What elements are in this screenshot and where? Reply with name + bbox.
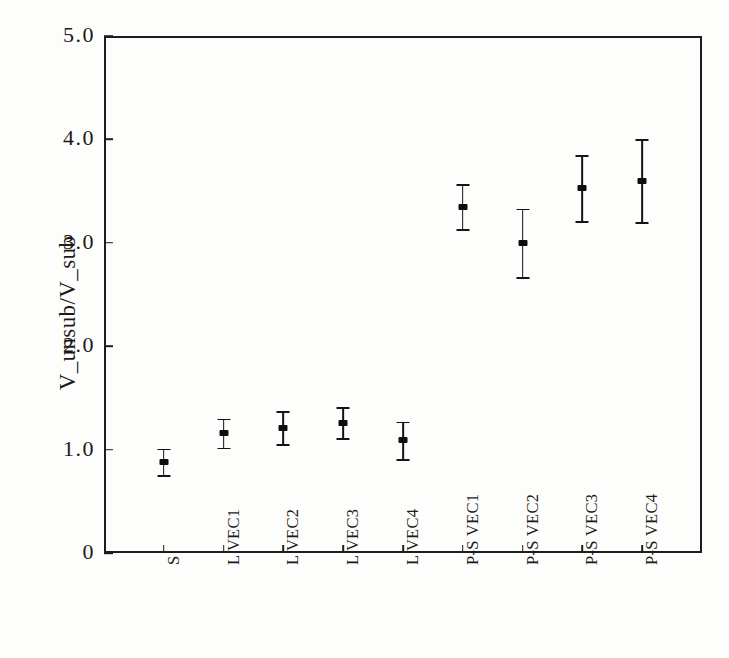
y-tick-mark bbox=[104, 35, 113, 37]
data-marker bbox=[399, 437, 408, 443]
x-tick-label: L VEC3 bbox=[343, 509, 363, 565]
error-bar-cap-top bbox=[277, 411, 290, 413]
data-marker bbox=[339, 420, 348, 426]
x-tick-label: P-S VEC4 bbox=[642, 494, 662, 565]
y-tick-mark bbox=[104, 242, 113, 244]
chart-figure: V_unsub/V_sub 01.02.03.04.05.0 SL VEC1L … bbox=[0, 0, 729, 658]
y-tick-label: 2.0 bbox=[63, 333, 95, 359]
x-tick-label: L VEC2 bbox=[283, 509, 303, 565]
error-bar-cap-top bbox=[456, 184, 469, 186]
error-bar-cap-top bbox=[516, 209, 529, 211]
error-bar-cap-top bbox=[397, 422, 410, 424]
error-bar-cap-top bbox=[337, 407, 350, 409]
x-tick-label: P-S VEC1 bbox=[463, 494, 483, 565]
plot-area: 01.02.03.04.05.0 SL VEC1L VEC2L VEC3L VE… bbox=[104, 36, 702, 553]
error-bar-cap-bottom bbox=[157, 475, 170, 477]
x-tick-label: L VEC1 bbox=[224, 509, 244, 565]
error-bar-cap-top bbox=[217, 419, 230, 421]
data-marker bbox=[638, 178, 647, 184]
y-axis-line bbox=[104, 36, 106, 553]
x-tick-label: P-S VEC3 bbox=[582, 494, 602, 565]
x-tick-label: S bbox=[164, 556, 184, 565]
error-bar-cap-top bbox=[157, 449, 170, 451]
y-tick-label: 1.0 bbox=[63, 436, 95, 462]
y-tick-label: 3.0 bbox=[63, 229, 95, 255]
error-bar-cap-bottom bbox=[277, 444, 290, 446]
x-tick-label: P-S VEC2 bbox=[523, 494, 543, 565]
y-tick-label: 0 bbox=[83, 539, 96, 565]
plot-right-border bbox=[700, 36, 702, 553]
error-bar-cap-bottom bbox=[516, 277, 529, 279]
y-tick-label: 4.0 bbox=[63, 126, 95, 152]
y-axis-title: V_unsub/V_sub bbox=[55, 153, 81, 473]
y-tick-mark bbox=[104, 552, 113, 554]
data-marker bbox=[159, 459, 168, 465]
data-marker bbox=[219, 430, 228, 436]
data-marker bbox=[518, 240, 527, 246]
error-bar-cap-bottom bbox=[217, 448, 230, 450]
y-tick-label: 5.0 bbox=[63, 22, 95, 48]
plot-top-border bbox=[104, 36, 702, 38]
error-bar-cap-top bbox=[576, 155, 589, 157]
error-bar-cap-bottom bbox=[337, 438, 350, 440]
error-bar-cap-bottom bbox=[397, 459, 410, 461]
x-tick-mark bbox=[163, 545, 165, 553]
data-marker bbox=[279, 425, 288, 431]
error-bar-cap-bottom bbox=[456, 229, 469, 231]
error-bar-cap-bottom bbox=[576, 221, 589, 223]
data-marker bbox=[578, 185, 587, 191]
y-tick-mark bbox=[104, 139, 113, 141]
x-tick-label: L VEC4 bbox=[403, 509, 423, 565]
y-tick-mark bbox=[104, 449, 113, 451]
error-bar-cap-top bbox=[636, 139, 649, 141]
error-bar-cap-bottom bbox=[636, 222, 649, 224]
y-tick-mark bbox=[104, 345, 113, 347]
data-marker bbox=[458, 204, 467, 210]
